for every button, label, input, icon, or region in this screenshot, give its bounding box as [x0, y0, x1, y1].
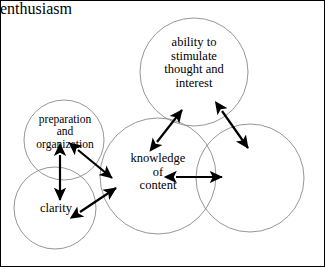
diagram-canvas: ability to stimulate thought and interes… — [0, 0, 325, 267]
circle-clarity[interactable] — [14, 167, 96, 249]
circles-group — [14, 18, 304, 249]
diagram-svg — [0, 0, 325, 267]
circle-ability[interactable] — [140, 18, 248, 126]
